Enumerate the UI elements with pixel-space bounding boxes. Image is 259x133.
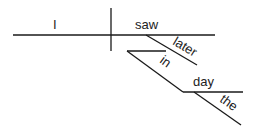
subject-word: I (53, 17, 57, 32)
preposition-slant-line (127, 51, 183, 92)
verb-word: saw (135, 17, 159, 32)
sentence-diagram: I saw later in day the (0, 0, 259, 133)
preposition-word: in (157, 52, 174, 70)
adverb-word: later (170, 34, 200, 60)
prep-object-word: day (193, 74, 214, 89)
